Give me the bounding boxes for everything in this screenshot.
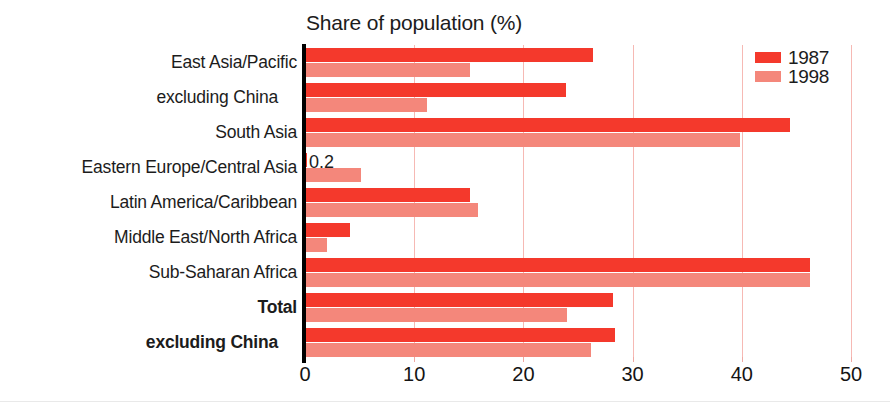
legend-swatch-1998 [755, 71, 781, 82]
bar-1987 [305, 118, 790, 132]
category-label: Sub-Saharan Africa [149, 262, 297, 282]
legend-swatch-1987 [755, 52, 781, 63]
category-label: Middle East/North Africa [114, 227, 297, 247]
legend-label-1987: 1987 [788, 48, 829, 67]
x-tick-label-30: 30 [621, 362, 643, 386]
bar-1987 [305, 328, 615, 342]
bar-1987 [305, 48, 593, 62]
plot-area [305, 45, 851, 360]
bar-group [305, 83, 851, 114]
legend-label-1998: 1998 [788, 67, 829, 86]
category-label: excluding China [156, 87, 278, 107]
legend-item-1987: 1987 [755, 48, 875, 67]
x-tick-label-40: 40 [731, 362, 753, 386]
x-axis-tick-labels: 01020304050 [305, 362, 851, 392]
category-label: South Asia [215, 122, 297, 142]
category-label: Eastern Europe/Central Asia [82, 157, 297, 177]
bar-1998 [305, 273, 810, 287]
tick-mark-20 [523, 357, 524, 362]
bar-1998 [305, 203, 478, 217]
chart-figure: Share of population (%) East Asia/Pacifi… [0, 0, 890, 408]
x-tick-label-0: 0 [299, 362, 310, 386]
bottom-divider [0, 401, 890, 402]
x-tick-label-10: 10 [403, 362, 425, 386]
tick-mark-40 [742, 357, 743, 362]
bar-1987 [305, 223, 350, 237]
bar-1998 [305, 343, 591, 357]
chart-legend: 1987 1998 [755, 48, 875, 86]
category-label: Total [257, 297, 297, 317]
bar-group [305, 328, 851, 359]
bar-1998 [305, 308, 567, 322]
bar-group [305, 293, 851, 324]
bar-1987 [305, 293, 613, 307]
category-label: Latin America/Caribbean [110, 192, 297, 212]
x-tick-label-50: 50 [840, 362, 862, 386]
bar-1987 [305, 83, 566, 97]
category-label: excluding China [146, 332, 278, 352]
category-label: East Asia/Pacific [171, 52, 297, 72]
tick-mark-50 [851, 357, 852, 362]
bar-1987 [305, 258, 810, 272]
x-tick-label-20: 20 [512, 362, 534, 386]
legend-item-1998: 1998 [755, 67, 875, 86]
bar-1987 [305, 188, 470, 202]
gridline-50 [851, 45, 852, 360]
bar-1998 [305, 98, 427, 112]
bar-group [305, 223, 851, 254]
bar-1998 [305, 133, 740, 147]
bar-group [305, 118, 851, 149]
tick-mark-10 [414, 357, 415, 362]
bar-group [305, 258, 851, 289]
category-axis-labels: East Asia/Pacificexcluding ChinaSouth As… [0, 45, 302, 360]
data-label-eastern-europe-1987: 0.2 [309, 152, 334, 172]
y-axis-line [302, 44, 306, 363]
tick-mark-30 [633, 357, 634, 362]
bar-1998 [305, 238, 327, 252]
chart-title: Share of population (%) [306, 10, 522, 35]
bar-group [305, 188, 851, 219]
bar-group [305, 153, 851, 184]
bar-1998 [305, 63, 470, 77]
